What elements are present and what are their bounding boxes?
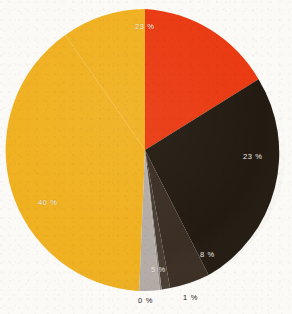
pie-label-gray-5: 5 % <box>151 265 166 274</box>
pie-label-yellow-40: 40 % <box>38 198 58 207</box>
pie-chart-page: 23 % 23 % 8 % 5 % 40 % 0 % 1 % <box>0 0 292 314</box>
pie-label-gray-0: 0 % <box>138 296 153 305</box>
pie-label-brown-8: 8 % <box>200 250 215 259</box>
pie-label-red-23: 23 % <box>135 22 155 31</box>
pie-label-black-23: 23 % <box>243 152 263 161</box>
pie-shading-overlay <box>4 9 286 291</box>
pie-label-brown-1: 1 % <box>183 293 198 302</box>
